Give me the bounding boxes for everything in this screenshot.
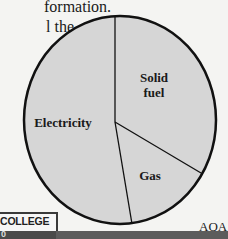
pie-chart: Solid fuel Gas Electricity [0,0,228,239]
bottom-bar-left [0,231,56,239]
bottom-bar-text: 0 [1,229,6,239]
college-stamp-text: COLLEGE [0,215,49,227]
slice-label-solid-fuel-1: Solid [140,70,169,85]
slice-label-solid-fuel-2: fuel [144,85,165,100]
slice-label-gas: Gas [139,168,161,183]
slice-label-electricity: Electricity [34,115,92,130]
